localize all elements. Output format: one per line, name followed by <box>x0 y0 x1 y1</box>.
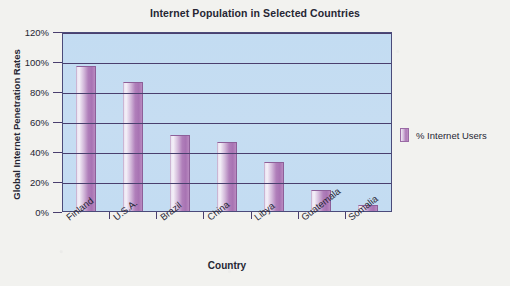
gridline-80% <box>63 93 391 94</box>
bar-slot-finland <box>63 33 110 211</box>
y-tick-label-0%: 0% <box>35 207 49 218</box>
y-tick-20% <box>53 182 62 183</box>
gridline-120% <box>63 33 391 34</box>
x-axis-title: Country <box>62 260 392 271</box>
plot-area <box>62 32 392 212</box>
legend-label-internet-users: % Internet Users <box>416 130 487 141</box>
bar-series-internet-users <box>63 33 391 211</box>
chart-legend: % Internet Users <box>400 128 487 142</box>
chart-title: Internet Population in Selected Countrie… <box>0 7 510 19</box>
bar-slot-china <box>204 33 251 211</box>
legend-swatch-internet-users <box>400 128 409 142</box>
y-tick-label-60%: 60% <box>30 117 49 128</box>
y-tick-label-120%: 120% <box>25 27 49 38</box>
bar-slot-somalia <box>344 33 391 211</box>
gridline-40% <box>63 153 391 154</box>
bar-slot-usa <box>110 33 157 211</box>
y-tick-80% <box>53 92 62 93</box>
y-tick-label-20%: 20% <box>30 177 49 188</box>
y-tick-100% <box>53 62 62 63</box>
chart-figure: Internet Population in Selected Countrie… <box>0 0 510 286</box>
bar-finland[interactable] <box>76 66 96 212</box>
y-tick-0% <box>53 212 62 213</box>
gridline-20% <box>63 183 391 184</box>
gridline-60% <box>63 123 391 124</box>
gridline-100% <box>63 63 391 64</box>
bar-slot-brazil <box>157 33 204 211</box>
bar-slot-libya <box>250 33 297 211</box>
y-tick-label-40%: 40% <box>30 147 49 158</box>
y-tick-label-80%: 80% <box>30 87 49 98</box>
y-tick-60% <box>53 122 62 123</box>
y-axis-labels: 0%20%40%60%80%100%120% <box>0 0 62 286</box>
y-tick-label-100%: 100% <box>25 57 49 68</box>
x-axis-labels: FinlandU.S.A.BrazilChinaLibyaGuatemalaSo… <box>62 214 392 264</box>
bar-slot-guatemala <box>297 33 344 211</box>
bar-usa[interactable] <box>123 82 143 211</box>
y-tick-120% <box>53 32 62 33</box>
bar-brazil[interactable] <box>170 135 190 212</box>
y-tick-40% <box>53 152 62 153</box>
